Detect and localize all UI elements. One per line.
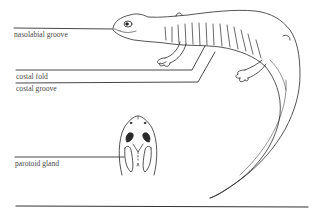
salamander-head-dorsal-view: [119, 116, 157, 175]
label-parotoid-gland: parotoid gland: [15, 160, 59, 168]
label-costal-groove: costal groove: [16, 85, 57, 93]
baseline-rule: [16, 206, 308, 207]
nasolabial-groove-leader: [14, 28, 114, 29]
leader-lines: [14, 28, 308, 207]
costal-grooves: [165, 23, 261, 58]
label-nasolabial-groove: nasolabial groove: [14, 31, 68, 39]
salamander-side-view: [113, 10, 300, 198]
label-costal-fold: costal fold: [16, 73, 48, 81]
anatomy-diagram: nasolabial groove costal fold costal gro…: [0, 0, 315, 211]
